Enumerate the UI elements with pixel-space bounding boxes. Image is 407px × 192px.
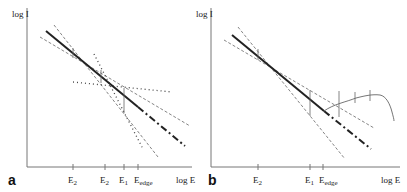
panel-a-tick-label-e2-first: E2 (68, 175, 78, 187)
panel-b-letter: b (208, 172, 217, 188)
panel-b-extrapolation-line (324, 111, 371, 149)
panel-b-dashed-steep (238, 27, 345, 159)
panel-b-dashed-shallow (224, 40, 374, 128)
panel-a-dashed-steep (54, 25, 158, 157)
panel-a-x-label: log E (176, 175, 196, 185)
panel-a-tick-label-eedge: Eedge (134, 175, 153, 187)
panel-b-x-label: log E (381, 175, 401, 185)
panel-b-tick-label-e2: E2 (253, 175, 263, 187)
panel-b-y-label: log I (196, 9, 213, 19)
panel-a-letter: a (8, 172, 16, 188)
panel-b: log I E2 E1 Eedge log E b (196, 8, 401, 188)
panel-a-dashed-shallow (40, 37, 190, 126)
panel-a-y-label: log I (12, 9, 29, 19)
figure: log I E2 E2 E1 Eedge log E a log I (0, 0, 407, 192)
panel-b-tick-label-eedge: Eedge (319, 175, 338, 187)
panel-b-edge-curve (324, 95, 394, 121)
panel-a-dotted-steep (94, 54, 143, 149)
panel-b-tick-label-e1: E1 (305, 175, 315, 187)
panel-a-dotted-flat (73, 82, 172, 92)
panel-a-tick-label-e1: E1 (119, 175, 129, 187)
panel-a-tick-label-e2-second: E2 (100, 175, 110, 187)
panel-a: log I E2 E2 E1 Eedge log E a (8, 8, 196, 188)
